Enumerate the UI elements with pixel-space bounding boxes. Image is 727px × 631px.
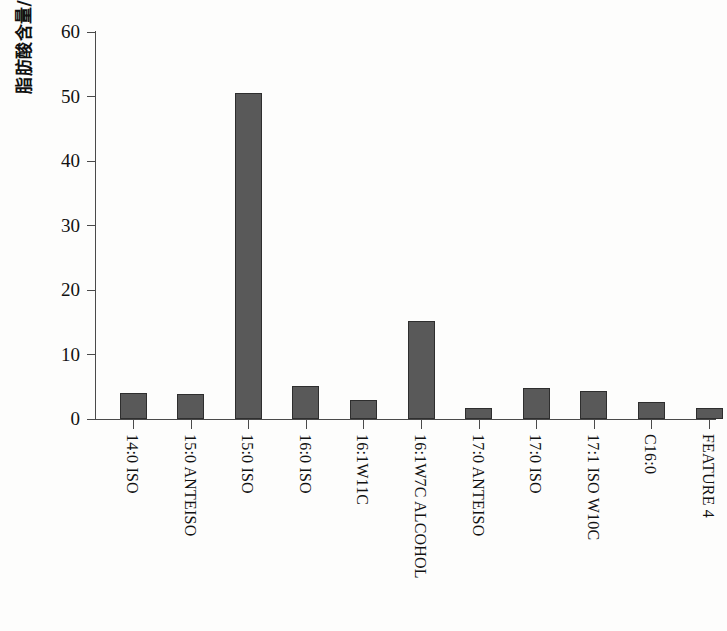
x-tick-mark: [536, 420, 537, 429]
x-tick-label: 15:0 ANTEISO: [182, 434, 198, 624]
x-tick-mark: [594, 420, 595, 429]
x-tick-label: 17:0 ANTEISO: [470, 434, 486, 624]
bar: [120, 393, 147, 419]
x-tick-mark: [479, 420, 480, 429]
y-tick-label: 30: [44, 216, 80, 235]
bar: [638, 402, 665, 419]
x-tick-mark: [651, 420, 652, 429]
x-axis-line: [95, 419, 716, 420]
x-tick-label: 14:0 ISO: [124, 434, 140, 624]
y-tick-mark: [87, 419, 96, 420]
x-tick-label: 16:0 ISO: [297, 434, 313, 624]
x-tick-label: 16:1W7C ALCOHOL: [412, 434, 428, 624]
y-tick-label: 0: [44, 409, 80, 428]
bar: [465, 408, 492, 419]
x-tick-label: 17:1 ISO W10C: [585, 434, 601, 624]
x-tick-label: C16:0: [642, 434, 658, 624]
y-tick-label: 10: [44, 345, 80, 364]
bar: [696, 408, 723, 419]
bar: [580, 391, 607, 419]
x-tick-mark: [306, 420, 307, 429]
fatty-acid-bar-chart: 脂肪酸含量/% 0102030405060 14:0 ISO15:0 ANTEI…: [0, 0, 727, 631]
y-tick-label: 40: [44, 151, 80, 170]
x-tick-mark: [421, 420, 422, 429]
bar: [350, 400, 377, 419]
x-tick-label: 16:1W11C: [354, 434, 370, 624]
bar: [408, 321, 435, 419]
y-tick-mark: [87, 290, 96, 291]
bar: [177, 394, 204, 419]
y-tick-label: 50: [44, 87, 80, 106]
y-tick-mark: [87, 354, 96, 355]
x-tick-mark: [191, 420, 192, 429]
bar: [523, 388, 550, 419]
bar: [235, 93, 262, 419]
x-tick-label: 15:0 ISO: [239, 434, 255, 624]
x-tick-label: 17:0 ISO: [527, 434, 543, 624]
x-tick-mark: [248, 420, 249, 429]
y-tick-label: 20: [44, 280, 80, 299]
y-tick-mark: [87, 32, 96, 33]
y-tick-mark: [87, 161, 96, 162]
y-axis-title: 脂肪酸含量/%: [10, 0, 38, 148]
y-tick-mark: [87, 225, 96, 226]
y-tick-label: 60: [44, 22, 80, 41]
bar: [292, 386, 319, 419]
y-tick-mark: [87, 96, 96, 97]
x-tick-label: FEATURE 4: [700, 434, 716, 624]
x-tick-mark: [363, 420, 364, 429]
x-tick-mark: [709, 420, 710, 429]
x-tick-mark: [133, 420, 134, 429]
